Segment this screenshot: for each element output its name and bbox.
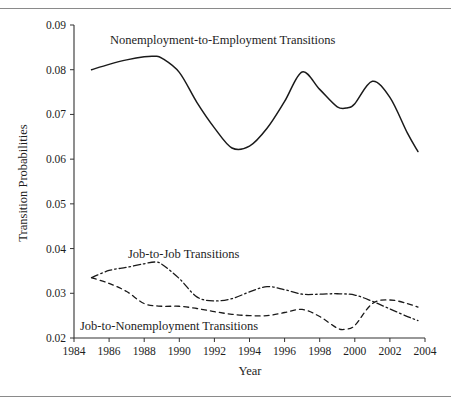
- x-tick-label: 1998: [308, 345, 331, 357]
- x-tick-label: 2002: [378, 345, 401, 357]
- y-axis-title: Transition Probabilities: [16, 124, 30, 241]
- y-tick-label: 0.06: [46, 153, 66, 165]
- x-tick-label: 2004: [414, 345, 437, 357]
- x-tick-label: 1984: [63, 345, 86, 357]
- y-tick-label: 0.02: [46, 332, 66, 344]
- figure-container: 0.020.030.040.050.060.070.080.09 1984198…: [0, 0, 451, 404]
- series-line-nonemployment-to-employment-transitions: [92, 56, 418, 151]
- series-line-job-to-job-transitions: [92, 262, 418, 321]
- y-axis-tick-labels: 0.020.030.040.050.060.070.080.09: [46, 19, 66, 344]
- y-tick-label: 0.04: [46, 243, 66, 255]
- x-tick-label: 1996: [273, 345, 296, 357]
- axes: [70, 25, 425, 342]
- x-tick-label: 1988: [133, 345, 156, 357]
- x-tick-label: 1990: [168, 345, 191, 357]
- y-tick-label: 0.05: [46, 198, 66, 210]
- y-tick-label: 0.03: [46, 287, 66, 299]
- line-chart: 0.020.030.040.050.060.070.080.09 1984198…: [0, 0, 451, 404]
- ann-job-to-nonemp: Job-to-Nonemployment Transitions: [80, 319, 258, 333]
- x-tick-label: 1992: [203, 345, 226, 357]
- y-tick-label: 0.08: [46, 64, 66, 76]
- x-tick-marks: [74, 338, 425, 342]
- x-tick-label: 2000: [343, 345, 366, 357]
- data-series-group: [92, 56, 418, 329]
- y-tick-label: 0.07: [46, 108, 66, 120]
- x-tick-label: 1994: [238, 345, 261, 357]
- x-tick-label: 1986: [98, 345, 121, 357]
- x-axis-tick-labels: 1984198619881990199219941996199820002002…: [63, 345, 437, 357]
- y-tick-label: 0.09: [46, 19, 66, 31]
- x-axis-title: Year: [238, 364, 262, 378]
- ann-job-to-job: Job-to-Job Transitions: [128, 247, 240, 261]
- y-tick-marks: [70, 25, 74, 338]
- ann-nonemp-to-emp: Nonemployment-to-Employment Transitions: [110, 33, 335, 47]
